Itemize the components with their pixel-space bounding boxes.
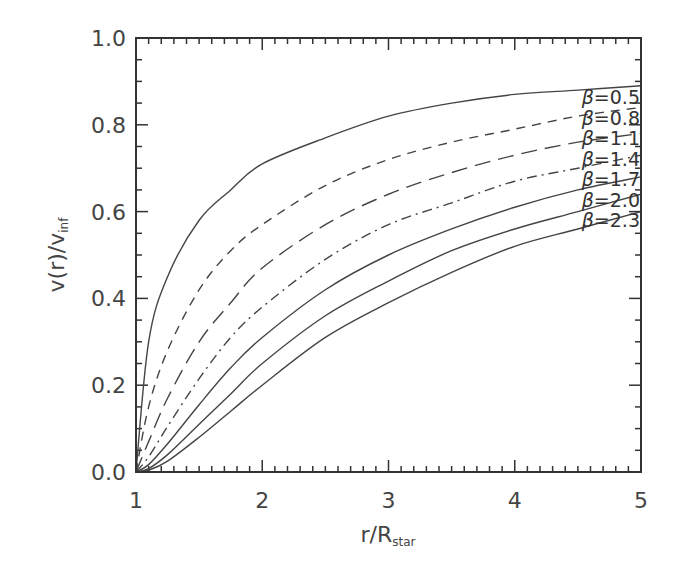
x-tick-label: 5 bbox=[634, 488, 648, 513]
curves bbox=[136, 86, 641, 472]
beta-symbol: β bbox=[581, 127, 594, 149]
curve-beta-2-3 bbox=[136, 212, 641, 472]
x-tick-label: 3 bbox=[382, 488, 396, 513]
beta-symbol: β bbox=[581, 189, 594, 211]
curve-label: β=1.4 bbox=[581, 148, 640, 170]
x-axis-title-sub: star bbox=[392, 535, 415, 549]
beta-value: =1.4 bbox=[594, 148, 640, 170]
beta-symbol: β bbox=[581, 168, 594, 190]
beta-symbol: β bbox=[581, 107, 594, 129]
axes: 123450.00.20.40.60.81.0 bbox=[91, 26, 648, 513]
curve-label: β=2.0 bbox=[581, 189, 640, 211]
y-tick-label: 0.2 bbox=[91, 373, 126, 398]
x-tick-label: 4 bbox=[508, 488, 522, 513]
curve-label: β=1.1 bbox=[581, 127, 640, 149]
curve-beta-1-4 bbox=[136, 155, 641, 472]
x-axis-title-main: r/R bbox=[361, 522, 393, 547]
y-tick-label: 1.0 bbox=[91, 26, 126, 51]
y-tick-label: 0.6 bbox=[91, 200, 126, 225]
beta-symbol: β bbox=[581, 209, 594, 231]
curve-label: β=0.5 bbox=[581, 86, 640, 108]
beta-velocity-law-chart: 123450.00.20.40.60.81.0 β=0.5β=0.8β=1.1β… bbox=[0, 0, 681, 576]
beta-symbol: β bbox=[581, 148, 594, 170]
curve-beta-0-5 bbox=[136, 86, 641, 472]
curve-label: β=1.7 bbox=[581, 168, 640, 190]
curve-beta-0-8 bbox=[136, 107, 641, 472]
curve-labels: β=0.5β=0.8β=1.1β=1.4β=1.7β=2.0β=2.3 bbox=[581, 86, 640, 231]
beta-value: =0.8 bbox=[594, 107, 640, 129]
beta-value: =0.5 bbox=[594, 86, 640, 108]
y-axis-title: v(r)/vinf bbox=[44, 217, 71, 293]
x-axis-title: r/Rstar bbox=[361, 522, 416, 549]
x-tick-label: 1 bbox=[129, 488, 143, 513]
beta-value: =2.3 bbox=[594, 209, 640, 231]
x-tick-label: 2 bbox=[255, 488, 269, 513]
curve-label: β=2.3 bbox=[581, 209, 640, 231]
beta-symbol: β bbox=[581, 86, 594, 108]
beta-value: =1.7 bbox=[594, 168, 640, 190]
y-axis-title-sub: inf bbox=[57, 217, 71, 233]
curve-beta-2-0 bbox=[136, 194, 641, 472]
y-axis-title-main: v(r)/v bbox=[44, 233, 69, 293]
beta-value: =1.1 bbox=[594, 127, 640, 149]
y-tick-label: 0.4 bbox=[91, 286, 126, 311]
beta-value: =2.0 bbox=[594, 189, 640, 211]
curve-label: β=0.8 bbox=[581, 107, 640, 129]
y-tick-label: 0.0 bbox=[91, 460, 126, 485]
y-tick-label: 0.8 bbox=[91, 113, 126, 138]
